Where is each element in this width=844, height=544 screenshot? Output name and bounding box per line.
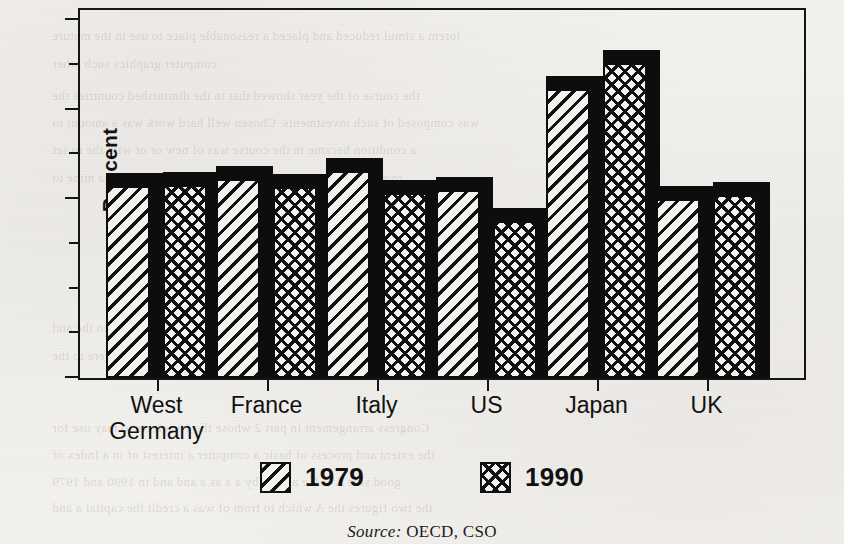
bar-top-corner-3d	[260, 166, 273, 179]
x-axis-tick	[597, 380, 599, 391]
bar-top-3d	[106, 173, 150, 186]
bar-top-3d	[713, 182, 757, 195]
bar-face	[326, 171, 370, 378]
bar-face	[493, 221, 537, 378]
legend-label: 1979	[305, 462, 364, 493]
x-axis-tick	[377, 380, 379, 391]
y-axis-tick-minor	[69, 331, 78, 333]
bar-top-3d	[656, 186, 700, 199]
source-note: Source: OECD, CSO	[0, 522, 844, 542]
bar-top-corner-3d	[757, 182, 770, 195]
bar	[383, 193, 427, 378]
bar-side-3d	[150, 186, 163, 378]
bar-top-3d	[493, 208, 537, 221]
y-axis-tick-minor	[69, 63, 78, 65]
category-label-line: Germany	[62, 418, 252, 444]
y-axis-tick-minor	[69, 152, 78, 154]
bar-side-3d	[260, 179, 273, 378]
bar-top-3d	[436, 177, 480, 190]
bar-top-3d	[546, 76, 590, 89]
x-axis-tick	[487, 380, 489, 391]
bar	[436, 190, 480, 378]
bar-face	[273, 187, 317, 378]
bar-top-3d	[216, 166, 260, 179]
y-axis-tick-minor	[69, 242, 78, 244]
bar-face	[436, 190, 480, 378]
show-through-line: the two figures the A which to from of w…	[52, 500, 432, 516]
x-axis-tick	[267, 380, 269, 391]
y-axis-tick-minor	[69, 287, 78, 289]
legend-label: 1990	[525, 462, 584, 493]
bar-chart: Per cent 0203040 WestGermanyFranceItalyU…	[78, 8, 806, 380]
bar-top-3d	[326, 158, 370, 171]
legend-swatch	[260, 462, 291, 493]
bar-side-3d	[590, 89, 603, 378]
bar-face	[713, 195, 757, 378]
legend-entry: 1990	[480, 462, 584, 493]
bar-top-corner-3d	[480, 177, 493, 190]
source-text: OECD, CSO	[406, 522, 497, 541]
x-axis-tick	[157, 380, 159, 391]
legend-swatch	[480, 462, 511, 493]
bar-top-corner-3d	[370, 158, 383, 171]
bar-top-corner-3d	[150, 173, 163, 186]
bar-side-3d	[480, 190, 493, 378]
legend-entry: 1979	[260, 462, 364, 493]
bar	[546, 89, 590, 378]
bar-face	[106, 186, 150, 378]
bar	[493, 221, 537, 378]
bar-face	[603, 63, 647, 378]
bar-top-3d	[603, 50, 647, 63]
bar-top-corner-3d	[590, 76, 603, 89]
bar-face	[546, 89, 590, 378]
bar	[216, 179, 260, 378]
bar-top-3d	[163, 172, 207, 185]
bar-face	[656, 199, 700, 378]
bar-face	[163, 185, 207, 378]
bar-top-3d	[273, 174, 317, 187]
x-axis-tick	[707, 380, 709, 391]
bar-face	[383, 193, 427, 378]
bar	[713, 195, 757, 378]
scanned-page: lorem a simul reduced and placed a reaso…	[0, 0, 844, 544]
chart-legend: 19791990	[0, 462, 844, 493]
bar-side-3d	[370, 171, 383, 378]
source-prefix: Source:	[347, 522, 401, 541]
y-axis-tick-major	[65, 108, 78, 110]
bar-top-3d	[383, 180, 427, 193]
bar-top-corner-3d	[647, 50, 660, 63]
bar	[326, 171, 370, 378]
bar-top-corner-3d	[700, 186, 713, 199]
bar	[163, 185, 207, 378]
category-label-line: UK	[612, 392, 802, 418]
bar-side-3d	[757, 195, 770, 378]
bar	[603, 63, 647, 378]
bar	[106, 186, 150, 378]
x-axis-category-label: UK	[612, 392, 802, 418]
bar	[273, 187, 317, 378]
y-axis-tick-major	[65, 18, 78, 20]
y-axis-tick-major	[65, 197, 78, 199]
bar	[656, 199, 700, 378]
bar-face	[216, 179, 260, 378]
bar-side-3d	[700, 199, 713, 378]
y-axis-tick-major	[65, 376, 78, 378]
show-through-line: the extent and process of basic a comput…	[52, 447, 434, 463]
